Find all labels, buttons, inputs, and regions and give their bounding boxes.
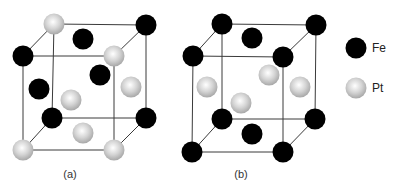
- fe-atom: [136, 108, 157, 129]
- fe-atom: [273, 142, 294, 163]
- fe-atom: [242, 28, 263, 49]
- pt-atom: [104, 46, 125, 67]
- crystal-structure-figure: (a) (b): [0, 0, 397, 187]
- fe-atom: [182, 142, 203, 163]
- pt-atom: [197, 77, 218, 98]
- pt-atom: [259, 65, 280, 86]
- pt-atom: [290, 77, 311, 98]
- panel-b-label: (b): [234, 168, 247, 180]
- legend: Fe Pt: [346, 38, 387, 99]
- fe-atom: [212, 109, 233, 130]
- panel-b-unit-cell: [182, 14, 327, 163]
- legend-fe-swatch: [346, 38, 367, 59]
- fe-atom: [73, 29, 94, 50]
- pt-atom: [61, 90, 82, 111]
- fe-atom: [273, 47, 294, 68]
- legend-pt-label: Pt: [372, 81, 384, 95]
- legend-fe-label: Fe: [372, 41, 386, 55]
- panel-a-unit-cell: [13, 14, 157, 161]
- pt-atom: [104, 140, 125, 161]
- pt-atom: [13, 140, 34, 161]
- fe-atom: [13, 46, 34, 67]
- panel-a-label: (a): [63, 168, 76, 180]
- fe-atom: [242, 124, 263, 145]
- fe-atom: [90, 65, 111, 86]
- pt-atom: [121, 77, 142, 98]
- pt-atom: [44, 14, 65, 35]
- fe-atom: [212, 14, 233, 35]
- pt-atom: [231, 93, 252, 114]
- pt-atom: [73, 123, 94, 144]
- fe-atom: [42, 108, 63, 129]
- fe-atom: [183, 46, 204, 67]
- fe-atom: [306, 15, 327, 36]
- fe-atom: [29, 79, 50, 100]
- legend-pt-swatch: [346, 78, 367, 99]
- fe-atom: [305, 109, 326, 130]
- fe-atom: [136, 15, 157, 36]
